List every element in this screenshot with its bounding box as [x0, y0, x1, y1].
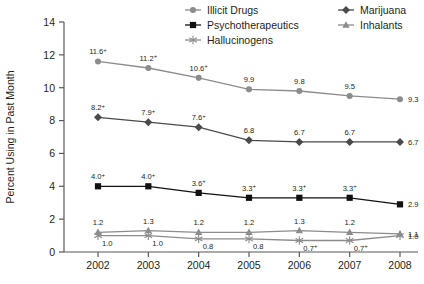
x-axis-tick-labels: 2002200320042005200620072008: [86, 259, 412, 271]
y-tick-label: 2: [49, 213, 55, 225]
legend-marker-square-icon: [190, 22, 196, 28]
y-axis-title: Percent Using in Past Month: [4, 70, 16, 203]
series-point: [295, 138, 303, 146]
series-point: [397, 201, 403, 207]
point-label: 1.2: [93, 218, 104, 227]
point-label: 7.9+: [141, 108, 156, 118]
legend-label: Inhalants: [360, 19, 403, 31]
series-point: [296, 195, 302, 201]
legend-entry-marijuana[interactable]: Marijuana: [338, 4, 406, 16]
legend-label: Illicit Drugs: [207, 4, 258, 16]
series-point: [95, 58, 101, 64]
legend-entry-psychotherapeutics[interactable]: Psychotherapeutics: [185, 19, 299, 31]
point-label: 6.7: [294, 128, 305, 137]
point-label: 11.2+: [139, 53, 157, 63]
point-label: 1.3: [294, 217, 305, 226]
legend-marker-diamond-icon: [342, 6, 350, 14]
point-label: 1.0: [408, 232, 419, 241]
series-point: [144, 118, 152, 126]
point-label: 3.6+: [192, 178, 207, 188]
point-label: 6.8: [244, 126, 255, 135]
y-tick-label: 12: [43, 49, 55, 61]
point-label: 1.0: [102, 239, 113, 248]
point-label: 6.7: [408, 138, 419, 147]
y-tick-label: 8: [49, 114, 55, 126]
point-label: 8.2+: [91, 103, 106, 113]
chart-container: Percent Using in Past Month 02468101214 …: [0, 0, 424, 284]
point-label: 1.2: [244, 218, 255, 227]
point-label: 10.6+: [190, 63, 209, 73]
y-tick-label: 6: [49, 147, 55, 159]
x-tick-label: 2002: [86, 259, 110, 271]
point-label: 4.0+: [141, 172, 156, 182]
point-label: 0.8: [203, 242, 214, 251]
y-axis-tick-labels: 02468101214: [43, 16, 55, 258]
series-layer: [94, 58, 404, 244]
point-value-labels: 11.6+11.2+10.6+9.99.89.59.38.2+7.9+7.6+6…: [89, 47, 418, 253]
legend-entry-illicit-drugs[interactable]: Illicit Drugs: [185, 4, 258, 16]
legend-entry-inhalants[interactable]: Inhalants: [338, 19, 403, 31]
x-tick-label: 2003: [137, 259, 161, 271]
series-point: [246, 86, 252, 92]
y-tick-label: 14: [43, 16, 55, 28]
point-label: 2.9: [408, 200, 419, 209]
point-label: 1.0: [152, 239, 163, 248]
point-label: 9.3: [408, 95, 419, 104]
x-tick-label: 2008: [388, 259, 412, 271]
legend-marker-circle-icon: [190, 7, 196, 13]
y-axis-ticks: [59, 22, 64, 252]
x-tick-label: 2004: [187, 259, 211, 271]
line-chart: Percent Using in Past Month 02468101214 …: [0, 0, 424, 284]
point-label: 1.2: [344, 218, 355, 227]
chart-axes: [59, 22, 418, 257]
series-point: [195, 123, 203, 131]
series-point: [396, 138, 404, 146]
point-label: 1.3: [143, 217, 154, 226]
point-label: 3.3+: [343, 183, 358, 193]
point-label: 7.6+: [192, 113, 207, 123]
y-tick-label: 10: [43, 82, 55, 94]
point-label: 4.0+: [91, 172, 106, 182]
series-point: [196, 190, 202, 196]
series-point: [94, 113, 102, 121]
point-label: 0.7+: [354, 243, 369, 253]
x-axis-ticks: [98, 252, 400, 257]
point-label: 3.3+: [242, 183, 257, 193]
point-label: 11.6+: [89, 47, 107, 57]
series-point: [296, 88, 302, 94]
series-point: [145, 65, 151, 71]
series-point: [95, 183, 101, 189]
x-tick-label: 2007: [338, 259, 362, 271]
series-point: [246, 195, 252, 201]
chart-legend: Illicit DrugsMarijuanaPsychotherapeutics…: [185, 4, 406, 46]
point-label: 0.7+: [303, 243, 318, 253]
point-label: 0.8: [253, 242, 264, 251]
y-tick-label: 4: [49, 180, 55, 192]
legend-label: Marijuana: [360, 4, 406, 16]
point-label: 9.8: [294, 77, 305, 86]
series-point: [196, 75, 202, 81]
legend-label: Hallucinogens: [207, 34, 273, 46]
point-label: 1.2: [193, 218, 204, 227]
point-label: 6.7: [344, 128, 355, 137]
point-label: 9.9: [244, 75, 255, 84]
point-label: 9.5: [344, 82, 355, 91]
series-point: [346, 138, 354, 146]
series-point: [145, 183, 151, 189]
legend-label: Psychotherapeutics: [207, 19, 299, 31]
series-point: [245, 136, 253, 144]
x-tick-label: 2005: [237, 259, 261, 271]
series-point: [397, 96, 403, 102]
x-tick-label: 2006: [288, 259, 312, 271]
y-tick-label: 0: [49, 246, 55, 258]
legend-entry-hallucinogens[interactable]: Hallucinogens: [185, 34, 273, 46]
series-point: [347, 195, 353, 201]
point-label: 3.3+: [292, 183, 307, 193]
series-point: [347, 93, 353, 99]
